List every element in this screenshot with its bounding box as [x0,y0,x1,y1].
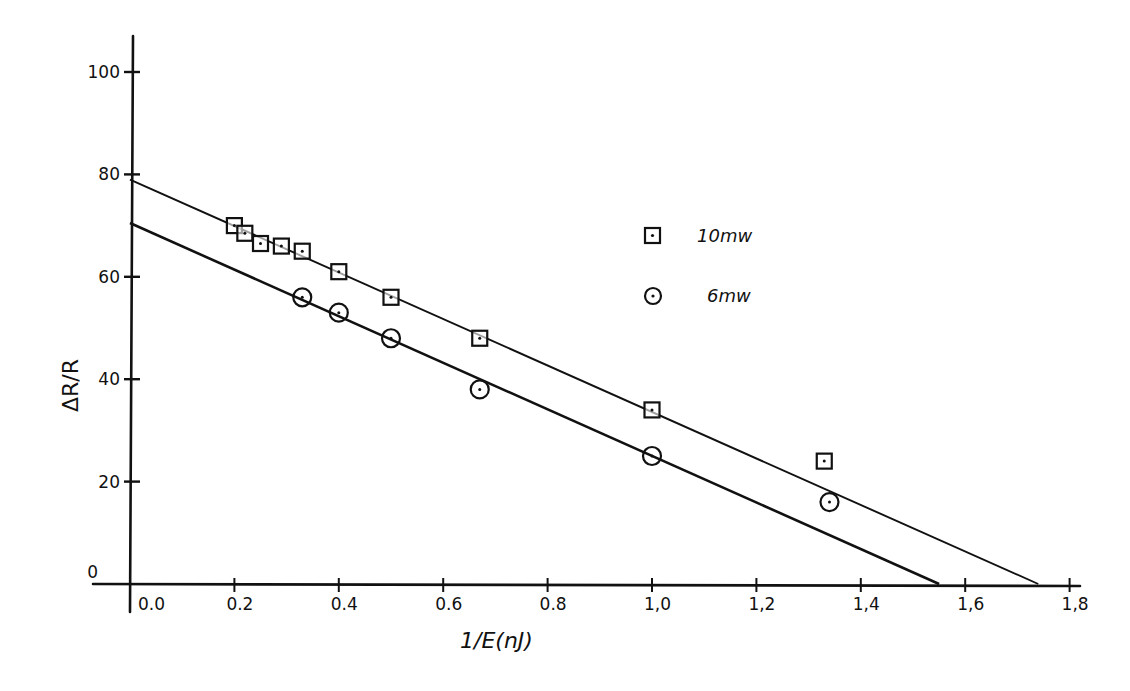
axes [93,36,1080,612]
x-tick-label: 0.8 [540,594,567,614]
dot-icon [301,296,304,299]
x-tick-label: 1,2 [748,594,775,614]
x-tick-label: 1,6 [957,594,984,614]
dot-icon [478,388,481,391]
y-tick-label: 60 [98,267,120,287]
legend-label: 10mw [697,225,752,246]
legend-item-6mw: 6mw [645,285,751,306]
legend: 10mw 6mw [645,225,752,306]
dot-icon [478,337,481,340]
data-point-10mw [331,264,346,279]
dot-icon [337,311,340,314]
dot-icon [823,460,826,463]
dot-icon [390,296,393,299]
data-point-10mw [237,226,252,241]
data-point-10mw [645,402,660,417]
data-point-6mw [820,493,838,511]
y-tick-label: 0 [87,562,98,582]
x-axis-title: 1/E(nJ) [460,628,533,653]
data-point-6mw [382,329,400,347]
x-tick-label: 0.0 [138,594,165,614]
dot-icon [301,250,304,253]
y-axis [130,36,133,612]
legend-label: 6mw [707,285,751,306]
dot-icon [259,242,262,245]
dot-icon [651,408,654,411]
data-point-10mw [472,331,487,346]
dot-icon [243,232,246,235]
y-tick-label: 80 [98,164,120,184]
data-point-6mw [471,380,489,398]
data-point-10mw [817,454,832,469]
data-point-6mw [643,447,661,465]
data-point-10mw [253,236,268,251]
x-tick-label: 1,8 [1062,594,1089,614]
y-tick-label: 100 [88,62,120,82]
dot-icon [651,234,654,237]
dot-icon [233,224,236,227]
x-tick-label: 0.4 [331,594,358,614]
y-axis-title: ΔR/R [58,359,83,412]
y-tick-label: 20 [98,472,120,492]
dot-icon [337,270,340,273]
x-tick-label: 1,4 [853,594,880,614]
data-points [227,218,839,511]
legend-item-10mw: 10mw [645,225,752,246]
dot-icon [390,337,393,340]
y-tick-label: 40 [98,369,120,389]
chart: 020406080100 0.00.20.40.60.81,01,21,41,6… [0,0,1130,691]
x-axis [93,584,1080,586]
x-tick-label: 1,0 [644,594,671,614]
dot-icon [651,294,654,297]
x-tick-label: 0.6 [435,594,462,614]
data-point-10mw [384,290,399,305]
data-point-10mw [274,239,289,254]
dot-icon [280,245,283,248]
fit-line-6mw [130,223,939,584]
dot-icon [651,455,654,458]
data-point-10mw [295,244,310,259]
dot-icon [828,501,831,504]
x-tick-label: 0.2 [226,594,253,614]
